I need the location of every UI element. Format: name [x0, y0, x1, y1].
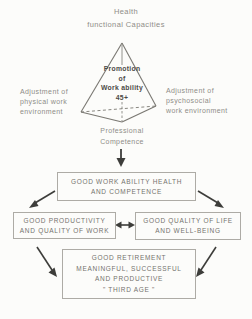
box-work-ability-outcome: GOOD WORK ABILITY HEALTH AND COMPETENCE	[57, 172, 196, 201]
outcome-box-line1: GOOD WORK ABILITY HEALTH	[58, 177, 195, 187]
productivity-box-line1: GOOD PRODUCTIVITY	[14, 216, 115, 226]
retirement-box-line2: MEANINGFUL, SUCCESSFUL	[63, 264, 195, 275]
pyramid-top-label: Health functional Capacities	[0, 5, 252, 31]
pyramid-bottom-label: Professional Competence	[82, 126, 162, 147]
bottom-label-line1: Professional	[82, 126, 162, 137]
productivity-box-line2: AND QUALITY OF WORK	[14, 226, 115, 236]
center-label-line2: of	[92, 74, 152, 84]
arrow-double-horizontal-icon	[115, 222, 135, 229]
bottom-label-line2: Competence	[82, 137, 162, 148]
box-productivity: GOOD PRODUCTIVITY AND QUALITY OF WORK	[13, 212, 116, 239]
arrow-left-to-retirement-icon	[37, 247, 57, 277]
right-label-line1: Adjustment of	[166, 86, 228, 96]
box-quality-of-life: GOOD QUALITY OF LIFE AND WELL-BEING	[135, 212, 241, 240]
left-label-line1: Adjustment of	[20, 87, 68, 97]
right-label-line2: psychosocial	[166, 96, 228, 106]
center-label-line4: 45+	[92, 93, 152, 103]
outcome-box-line2: AND COMPETENCE	[58, 187, 195, 197]
arrow-diagonal-right-icon	[198, 191, 224, 208]
box-retirement: GOOD RETIREMENT MEANINGFUL, SUCCESSFUL A…	[62, 249, 196, 299]
center-label-line3: Work ability	[92, 83, 152, 93]
arrow-right-to-retirement-icon	[196, 247, 216, 277]
arrow-down-icon	[117, 149, 126, 167]
quality-box-line2: AND WELL-BEING	[136, 226, 240, 236]
pyramid-top-label-line1: Health	[0, 5, 252, 18]
retirement-box-line3: AND PRODUCTIVE	[63, 274, 195, 285]
retirement-box-line4: " THIRD AGE "	[63, 285, 195, 296]
left-label-line2: physical work	[20, 97, 68, 107]
center-label-line1: Promotion	[92, 64, 152, 74]
pyramid-center-label: Promotion of Work ability 45+	[92, 64, 152, 102]
pyramid-right-label: Adjustment of psychosocial work environm…	[166, 86, 228, 116]
left-label-line3: environment	[20, 107, 68, 117]
arrow-diagonal-left-icon	[29, 191, 55, 208]
right-label-line3: work environment	[166, 106, 228, 116]
pyramid-top-label-line2: functional Capacities	[0, 18, 252, 31]
retirement-box-line1: GOOD RETIREMENT	[63, 253, 195, 264]
pyramid-left-label: Adjustment of physical work environment	[20, 87, 68, 117]
figure-canvas: Health functional Capacities Promotion o…	[0, 0, 252, 319]
quality-box-line1: GOOD QUALITY OF LIFE	[136, 216, 240, 226]
